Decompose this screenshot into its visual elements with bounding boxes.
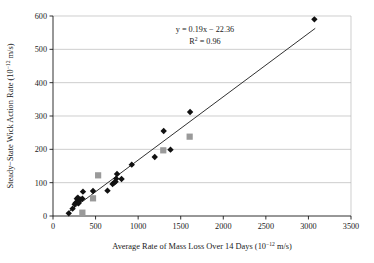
data-point-marker bbox=[160, 147, 166, 153]
y-axis-tick-label: 0 bbox=[43, 212, 47, 221]
x-axis-tick-label: 3500 bbox=[343, 222, 359, 231]
y-axis-tick-label: 600 bbox=[35, 12, 47, 21]
y-axis-tick-label: 200 bbox=[35, 145, 47, 154]
x-axis-title: Average Rate of Mass Loss Over 14 Days (… bbox=[112, 241, 292, 251]
x-axis-tick-label: 0 bbox=[51, 222, 55, 231]
data-point-marker bbox=[95, 172, 101, 178]
x-axis-tick-label: 500 bbox=[89, 222, 101, 231]
y-axis-title-exponent: −12 bbox=[5, 60, 11, 69]
data-point-marker bbox=[79, 210, 85, 216]
x-axis-title-exponent: −12 bbox=[266, 241, 275, 247]
x-axis-tick-label: 3000 bbox=[300, 222, 316, 231]
y-axis-title-base: Steady−State Wick Action Rate (10 bbox=[6, 69, 15, 188]
x-axis-tick-label: 1500 bbox=[173, 222, 189, 231]
x-axis-tick-label: 2500 bbox=[258, 222, 274, 231]
data-point-marker bbox=[187, 134, 193, 140]
y-axis-tick-label: 400 bbox=[35, 79, 47, 88]
scatter-chart: 0100200300400500600 05001000150020002500… bbox=[0, 0, 374, 263]
y-axis-tick-label: 300 bbox=[35, 112, 47, 121]
x-axis-tick-label: 2000 bbox=[215, 222, 231, 231]
x-axis-tick-label: 1000 bbox=[130, 222, 146, 231]
x-axis-title-base: Average Rate of Mass Loss Over 14 Days (… bbox=[112, 242, 266, 251]
y-axis-title-tail: m/s) bbox=[6, 43, 15, 60]
data-point-marker bbox=[90, 195, 96, 201]
y-axis-tick-label: 100 bbox=[35, 179, 47, 188]
y-axis-tick-label: 500 bbox=[35, 45, 47, 54]
r-squared-label: R2 = 0.96 bbox=[189, 36, 220, 46]
r-squared-value: = 0.96 bbox=[198, 37, 221, 46]
x-axis-title-tail: m/s) bbox=[275, 242, 292, 251]
regression-equation-label: y = 0.19x − 22.36 bbox=[176, 25, 234, 34]
